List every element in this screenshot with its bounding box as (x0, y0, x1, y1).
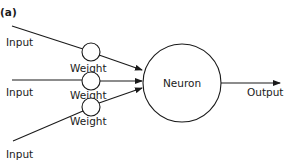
neuron-label: Neuron (163, 77, 201, 89)
input-label-1: Input (6, 36, 33, 48)
output-label: Output (247, 86, 283, 98)
input-label-3: Input (6, 148, 33, 160)
weight-label-3: Weight (70, 115, 107, 127)
input-branch-1: Input Weight (6, 26, 142, 74)
weight-node-1 (82, 43, 100, 61)
panel-label: (a) (0, 6, 17, 18)
output-branch: Output (221, 83, 283, 98)
neuron: Neuron (143, 44, 221, 122)
weight-node-2 (82, 72, 100, 90)
input-label-2: Input (6, 86, 33, 98)
input-branch-2: Input Weight (6, 72, 142, 101)
neuron-diagram: (a) Input Weight Input Weight Weight Inp… (0, 0, 303, 167)
weight-node-3 (82, 98, 100, 116)
